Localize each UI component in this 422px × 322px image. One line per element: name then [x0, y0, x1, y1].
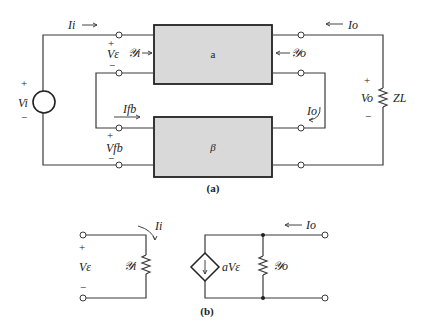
label-zl: ZL — [393, 91, 407, 105]
minus-sign: − — [365, 110, 371, 122]
terminal — [298, 70, 304, 76]
terminal — [322, 295, 328, 301]
label-yi: 𝒴i — [128, 46, 141, 60]
minus-sign: − — [108, 152, 114, 164]
minus-sign: − — [21, 111, 27, 123]
input-top-wire — [43, 35, 154, 91]
terminal — [322, 232, 328, 238]
terminal — [80, 232, 86, 238]
label-a-v-epsilon: aVε — [222, 260, 240, 274]
output-inner-wire — [272, 73, 325, 128]
output-resistor-icon — [259, 256, 267, 275]
terminal — [298, 125, 304, 131]
label-yo: 𝒴o — [291, 46, 306, 60]
minus-sign: − — [109, 59, 115, 71]
input-bottom-wire — [43, 113, 154, 165]
label-ii: Ii — [67, 18, 75, 32]
plus-sign: + — [364, 74, 370, 86]
arrow-left-icon — [326, 22, 343, 26]
terminal — [298, 32, 304, 38]
label-ii: Ii — [154, 219, 162, 233]
plus-sign: + — [21, 77, 27, 89]
caption-a: (a) — [207, 182, 220, 195]
label-io: Io — [305, 218, 316, 232]
figure-b: + Vε − 𝒴i Ii aVε 𝒴o Io (b) — [79, 218, 328, 318]
input-inner-wire — [96, 73, 154, 128]
input-model-bottom-wire — [86, 274, 146, 298]
terminal — [298, 162, 304, 168]
label-io-mid: Io — [306, 104, 317, 118]
block-beta-label: β — [209, 141, 216, 153]
terminal — [116, 70, 122, 76]
label-vo: Vo — [361, 91, 373, 105]
junction-dot — [261, 233, 265, 237]
feedback-amplifier-diagram: a β Ii + Vi − + Vε − 𝒴i Ifb + — [0, 0, 422, 322]
plus-sign: + — [79, 241, 85, 253]
terminal — [116, 32, 122, 38]
arrow-left-icon — [276, 51, 290, 55]
terminal — [116, 125, 122, 131]
label-yo: 𝒴o — [273, 259, 288, 273]
input-resistor-icon — [142, 255, 150, 274]
label-v-epsilon: Vε — [79, 260, 91, 274]
label-io-top: Io — [347, 18, 358, 32]
label-yi: 𝒴i — [124, 259, 137, 273]
block-a-label: a — [211, 48, 216, 60]
figure-a: a β Ii + Vi − + Vε − 𝒴i Ifb + — [18, 18, 407, 195]
minus-sign: − — [80, 281, 86, 293]
arrow-right-icon — [82, 23, 97, 27]
junction-dot — [261, 296, 265, 300]
terminal — [116, 162, 122, 168]
arrow-left-icon — [285, 223, 302, 227]
plus-sign: + — [107, 129, 113, 141]
voltage-source-icon — [33, 91, 55, 113]
arrow-right-icon — [142, 51, 152, 55]
label-vi: Vi — [18, 96, 28, 110]
load-resistor-icon — [379, 88, 387, 107]
terminal — [80, 295, 86, 301]
label-ifb: Ifb — [122, 102, 136, 116]
caption-b: (b) — [200, 305, 214, 318]
input-model-top-wire — [86, 235, 146, 255]
